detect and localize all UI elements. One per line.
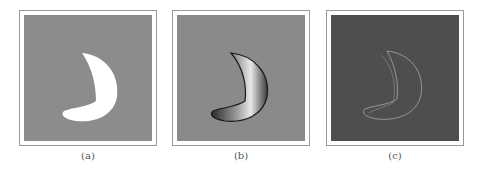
image-shaded-crescent bbox=[177, 15, 305, 141]
image-edge-crescent bbox=[331, 15, 459, 141]
caption-c: (c) bbox=[326, 150, 464, 161]
panel-b bbox=[172, 10, 310, 146]
panel-a bbox=[19, 10, 157, 146]
image-binary-crescent bbox=[24, 15, 152, 141]
panel-c bbox=[326, 10, 464, 146]
caption-a: (a) bbox=[19, 150, 157, 161]
caption-b: (b) bbox=[172, 150, 310, 161]
